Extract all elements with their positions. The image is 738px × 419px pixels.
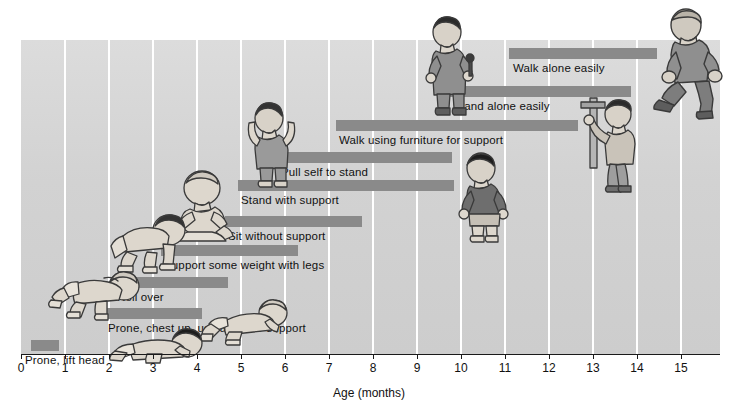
x-tick-6 (285, 354, 286, 359)
gridline-month-14 (636, 40, 638, 354)
gridline-month-4 (196, 40, 198, 354)
bar-prone-chest-up (105, 308, 202, 319)
bar-label-pull-self-to-stand: Pull self to stand (281, 166, 368, 179)
x-tick-label-13: 13 (586, 361, 599, 375)
x-tick-label-15: 15 (674, 361, 687, 375)
x-tick-1 (65, 354, 66, 359)
x-tick-label-3: 3 (150, 361, 157, 375)
bar-label-support-some-weight: Support some weight with legs (164, 259, 324, 272)
x-tick-label-14: 14 (630, 361, 643, 375)
x-tick-8 (373, 354, 374, 359)
bar-label-stand-alone-easily: Stand alone easily (453, 100, 550, 113)
x-tick-2 (109, 354, 110, 359)
bar-roll-over (114, 277, 228, 288)
bar-label-prone-chest-up: Prone, chest up, use arms for support (108, 322, 306, 335)
x-tick-3 (153, 354, 154, 359)
x-tick-label-10: 10 (454, 361, 467, 375)
gridline-month-2 (108, 40, 110, 354)
bar-support-some-weight (161, 245, 298, 256)
bar-prone-lift-head (31, 340, 59, 351)
x-tick-label-7: 7 (326, 361, 333, 375)
x-tick-4 (197, 354, 198, 359)
developmental-milestones-chart: Walk alone easily Stand alone easily Wal… (0, 0, 738, 419)
x-axis-title: Age (months) (0, 386, 738, 400)
x-tick-14 (637, 354, 638, 359)
x-tick-label-1: 1 (62, 361, 69, 375)
x-tick-label-5: 5 (238, 361, 245, 375)
x-tick-label-2: 2 (106, 361, 113, 375)
x-axis-line (21, 354, 720, 355)
x-tick-label-0: 0 (18, 361, 25, 375)
bar-label-walk-alone-easily: Walk alone easily (513, 62, 605, 75)
bar-label-walk-using-furniture: Walk using furniture for support (339, 134, 503, 147)
x-tick-label-4: 4 (194, 361, 201, 375)
gridline-month-9 (416, 40, 418, 354)
x-tick-5 (241, 354, 242, 359)
x-tick-label-6: 6 (282, 361, 289, 375)
bar-stand-with-support (238, 180, 454, 191)
bar-walk-alone-easily (509, 48, 657, 59)
x-tick-label-9: 9 (414, 361, 421, 375)
bar-stand-alone-easily (450, 86, 631, 97)
gridline-month-8 (372, 40, 374, 354)
plot-area: Walk alone easily Stand alone easily Wal… (21, 40, 720, 354)
x-tick-7 (329, 354, 330, 359)
x-tick-label-8: 8 (370, 361, 377, 375)
x-tick-15 (681, 354, 682, 359)
bar-sit-without-support (225, 216, 362, 227)
bar-label-stand-with-support: Stand with support (241, 194, 339, 207)
bar-label-sit-without-support: Sit without support (228, 230, 325, 243)
x-tick-9 (417, 354, 418, 359)
x-tick-0 (21, 354, 22, 359)
bar-label-roll-over: Roll over (117, 291, 164, 304)
x-tick-12 (549, 354, 550, 359)
x-tick-11 (505, 354, 506, 359)
x-tick-13 (593, 354, 594, 359)
x-tick-10 (461, 354, 462, 359)
bar-pull-self-to-stand (278, 152, 452, 163)
x-tick-label-12: 12 (542, 361, 555, 375)
x-tick-label-11: 11 (499, 361, 511, 375)
gridline-month-15 (680, 40, 682, 354)
gridline-month-3 (152, 40, 154, 354)
bar-walk-using-furniture (336, 120, 578, 131)
gridline-month-1 (64, 40, 66, 354)
